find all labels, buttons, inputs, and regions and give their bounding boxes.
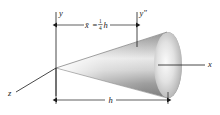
figure-canvas: x̄ = 1 4 h h y y″ x z bbox=[0, 0, 220, 115]
centroid-variable: h bbox=[104, 20, 108, 30]
z-axis-label: z bbox=[7, 88, 12, 98]
y-double-prime-axis-label: y″ bbox=[139, 8, 148, 18]
centroid-fraction-denominator: 4 bbox=[99, 25, 102, 31]
centroid-fraction-numerator: 1 bbox=[99, 18, 102, 24]
y-axis-label: y bbox=[58, 8, 63, 18]
centroid-equals: = bbox=[93, 20, 98, 30]
cone-centroid-figure: x̄ = 1 4 h h y y″ x z bbox=[0, 0, 220, 115]
centroid-symbol: x̄ bbox=[84, 20, 90, 30]
centroid-dimension-group: x̄ = 1 4 h bbox=[57, 17, 136, 31]
x-axis-label: x bbox=[207, 59, 212, 69]
z-axis-line bbox=[16, 68, 56, 92]
height-label: h bbox=[108, 95, 112, 105]
